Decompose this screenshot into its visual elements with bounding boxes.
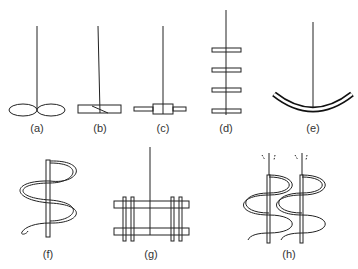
gate-impeller-g [114,147,189,241]
label-h: (h) [274,248,304,260]
anchor-impeller-e [274,22,352,110]
double-helical-ribbon-impeller-h [244,153,326,243]
label-f: (f) [33,248,63,260]
pitched-blade-impeller-b [78,26,121,113]
impeller-diagram [0,0,358,269]
label-c: (c) [148,122,178,134]
label-a: (a) [22,122,52,134]
label-e: (e) [298,122,328,134]
propeller-impeller-a [9,26,65,116]
label-g: (g) [136,248,166,260]
label-d: (d) [211,122,241,134]
multistage-paddle-impeller-d [212,10,241,115]
helical-ribbon-impeller-f [20,160,76,237]
label-b: (b) [85,122,115,134]
turbine-impeller-c [134,26,186,114]
